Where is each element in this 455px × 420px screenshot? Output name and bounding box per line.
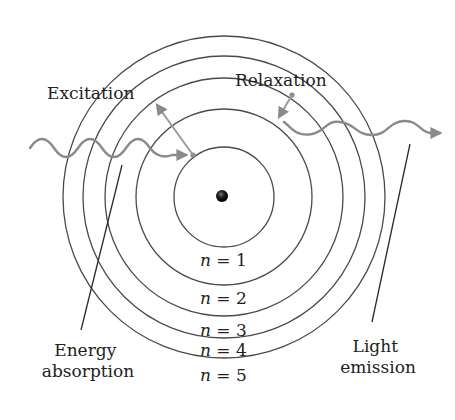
outgoing-photon-wave [284,121,440,135]
light-emission-line2: emission [340,357,416,377]
level-label-n4: n = 4 [200,340,247,360]
nucleus [216,190,228,202]
light-emission-line1: Light [353,336,399,356]
relaxation-label: Relaxation [235,70,327,90]
excitation-arrow [157,105,193,155]
level-label-n2: n = 2 [200,288,247,308]
level-label-n1: n = 1 [200,250,247,270]
excitation-label: Excitation [47,83,134,103]
level-label-n5: n = 5 [200,365,247,385]
light-emission-label: Light emission [340,336,416,377]
incoming-photon-wave [30,139,186,157]
bohr-model-diagram: Excitation Relaxation Energy absorption … [0,0,455,420]
light-emission-leader [372,144,410,322]
relaxation-arrow [279,95,292,117]
energy-absorption-line1: Energy [54,340,116,360]
energy-absorption-label: Energy absorption [42,340,134,381]
energy-level-labels: n = 1 n = 2 n = 3 n = 4 n = 5 [200,250,247,385]
level-label-n3: n = 3 [200,320,247,340]
energy-absorption-line2: absorption [42,361,134,381]
